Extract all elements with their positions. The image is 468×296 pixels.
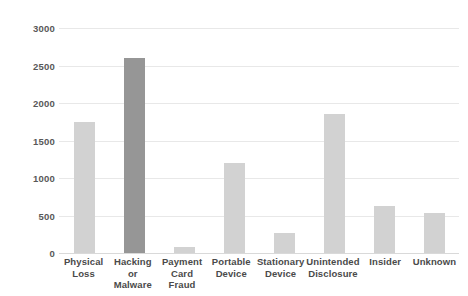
bar-stationary-device[interactable] bbox=[274, 233, 295, 253]
x-axis-tick-label: Hacking orMalware bbox=[108, 256, 157, 291]
x-axis-label-line: Disclosure bbox=[306, 268, 359, 280]
x-axis-label-line: Loss bbox=[60, 268, 107, 280]
x-axis-tick-label: StationaryDevice bbox=[256, 256, 305, 291]
bars-container bbox=[59, 28, 459, 253]
y-axis: 050010001500200025003000 bbox=[0, 28, 55, 253]
bar-physical-loss[interactable] bbox=[74, 122, 95, 253]
x-axis-label-line: Unknown bbox=[411, 256, 458, 268]
x-axis-label-line: Card Fraud bbox=[158, 268, 205, 291]
y-axis-tick-label: 500 bbox=[7, 210, 55, 221]
bar-chart: 050010001500200025003000 PhysicalLossHac… bbox=[0, 0, 468, 296]
gridline bbox=[59, 253, 459, 254]
bar-slot bbox=[159, 28, 209, 253]
y-axis-tick-label: 2000 bbox=[7, 98, 55, 109]
x-axis-label-line: Portable bbox=[208, 256, 255, 268]
bar-hacking-or-malware[interactable] bbox=[124, 58, 145, 253]
y-axis-tick-label: 0 bbox=[7, 248, 55, 259]
y-axis-tick-label: 3000 bbox=[7, 23, 55, 34]
x-axis-tick-label: PortableDevice bbox=[207, 256, 256, 291]
y-axis-tick-label: 1500 bbox=[7, 135, 55, 146]
x-axis-tick-label: PaymentCard Fraud bbox=[157, 256, 206, 291]
x-axis-label-line: Device bbox=[257, 268, 304, 280]
bar-payment-card-fraud[interactable] bbox=[174, 247, 195, 253]
bar-unknown[interactable] bbox=[424, 213, 445, 253]
bar-slot bbox=[59, 28, 109, 253]
bar-slot bbox=[359, 28, 409, 253]
x-axis-tick-label: PhysicalLoss bbox=[59, 256, 108, 291]
x-axis-label-line: Hacking or bbox=[109, 256, 156, 279]
bar-slot bbox=[209, 28, 259, 253]
x-axis-label-line: Stationary bbox=[257, 256, 304, 268]
bar-slot bbox=[109, 28, 159, 253]
bar-slot bbox=[309, 28, 359, 253]
x-axis-label-line: Payment bbox=[158, 256, 205, 268]
bar-portable-device[interactable] bbox=[224, 163, 245, 253]
x-axis-tick-label: UnintendedDisclosure bbox=[305, 256, 360, 291]
x-axis-tick-label: Insider bbox=[361, 256, 410, 291]
bar-unintended-disclosure[interactable] bbox=[324, 114, 345, 253]
x-axis-label-line: Physical bbox=[60, 256, 107, 268]
y-axis-tick-label: 1000 bbox=[7, 173, 55, 184]
x-axis-tick-label: Unknown bbox=[410, 256, 459, 291]
x-axis: PhysicalLossHacking orMalwarePaymentCard… bbox=[59, 256, 459, 291]
bar-slot bbox=[259, 28, 309, 253]
x-axis-label-line: Unintended bbox=[306, 256, 359, 268]
x-axis-label-line: Device bbox=[208, 268, 255, 280]
bar-slot bbox=[409, 28, 459, 253]
x-axis-label-line: Insider bbox=[362, 256, 409, 268]
x-axis-label-line: Malware bbox=[109, 279, 156, 291]
bar-insider[interactable] bbox=[374, 206, 395, 253]
y-axis-tick-label: 2500 bbox=[7, 60, 55, 71]
